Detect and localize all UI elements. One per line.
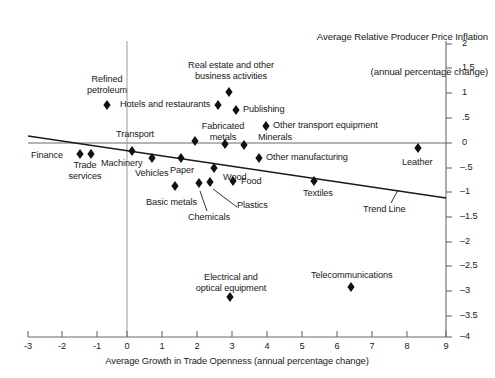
x-tick-label: 6: [327, 341, 347, 351]
point-label-fabricated-metals: Fabricatedmetals: [187, 121, 259, 142]
point-label-food: Food: [241, 176, 262, 187]
x-tick-marks: [28, 331, 446, 337]
y-tick-label: –1: [460, 186, 470, 196]
point-label-textiles: Textiles: [303, 188, 333, 199]
y-tick-marks: [446, 44, 452, 337]
point-label-transport: Transport: [116, 129, 154, 140]
y-tick-label: –2: [460, 236, 470, 246]
point-label-chemicals: Chemicals: [188, 212, 230, 223]
data-point-leather: [414, 143, 421, 153]
y-tick-label: –3.5: [460, 310, 477, 320]
data-point-plastics: [206, 177, 213, 187]
x-tick-label: 1: [152, 341, 172, 351]
y-tick-label: –2.5: [460, 260, 477, 270]
x-tick-label: 9: [436, 341, 456, 351]
x-tick-label: 0: [117, 341, 137, 351]
y-tick-label: 1.5: [462, 62, 474, 72]
x-tick-label: 7: [362, 341, 382, 351]
y-tick-label: .5: [462, 112, 469, 122]
x-tick-label: -1: [87, 341, 107, 351]
data-point-chemicals: [195, 178, 202, 188]
x-tick-label: 8: [397, 341, 417, 351]
data-point-real-estate: [225, 87, 232, 97]
point-label-real-estate: Real estate and otherbusiness activities: [161, 60, 301, 81]
point-label-minerals: Minerals: [258, 132, 292, 143]
data-point-publishing: [232, 105, 239, 115]
data-point-paper: [177, 153, 184, 163]
data-point-basic-metals: [171, 181, 178, 191]
point-label-finance: Finance: [31, 150, 63, 161]
data-point-other-manufacturing: [255, 153, 262, 163]
x-tick-label: 3: [222, 341, 242, 351]
point-label-publishing: Publishing: [243, 104, 284, 115]
point-label-hotels-restaurants: Hotels and restaurants: [120, 99, 210, 110]
point-label-basic-metals: Basic metals: [146, 197, 197, 208]
data-point-hotels-restaurants: [214, 100, 221, 110]
x-axis-title: Average Growth in Trade Openness (annual…: [57, 355, 417, 366]
point-label-other-manufacturing: Other manufacturing: [266, 152, 348, 163]
x-tick-label: 2: [187, 341, 207, 351]
x-tick-label: -2: [52, 341, 72, 351]
plastics-leader-line: [213, 189, 237, 207]
data-point-other-transport-eq: [262, 121, 269, 131]
data-point-refined-petroleum: [103, 100, 110, 110]
data-point-trade-services: [87, 149, 94, 159]
y-tick-label: 2: [462, 38, 467, 48]
y-tick-label: –3: [460, 285, 470, 295]
data-point-finance: [76, 149, 83, 159]
point-label-plastics: Plastics: [237, 200, 268, 211]
trend-leader-line: [391, 190, 398, 203]
data-point-electrical-optical: [226, 292, 233, 302]
plot-area: [0, 0, 495, 378]
point-label-refined-petroleum: Refinedpetroleum: [62, 74, 152, 95]
y-tick-label: –1.5: [460, 211, 477, 221]
x-tick-label: 5: [292, 341, 312, 351]
chemicals-leader-line: [200, 191, 207, 211]
point-label-other-transport-equipment: Other transport equipment: [273, 120, 378, 131]
y-tick-label: –4: [460, 331, 470, 341]
x-tick-label: 4: [257, 341, 277, 351]
point-label-vehicles: Vehicles: [135, 168, 168, 179]
x-tick-label: -3: [18, 341, 38, 351]
y-tick-label: –.5: [460, 162, 472, 172]
data-point-telecommunications: [347, 282, 354, 292]
y-tick-label: 0: [462, 137, 467, 147]
point-label-telecommunications: Telecommunications: [311, 270, 392, 281]
y-tick-label: 1: [462, 87, 467, 97]
trend-line-label: Trend Line: [363, 204, 406, 215]
point-label-leather: Leather: [402, 157, 432, 168]
point-label-electrical-optical-equipment: Electrical andoptical equipment: [176, 272, 286, 293]
point-label-machinery: Machinery: [101, 158, 142, 169]
scatter-chart: Average Relative Producer Price Inflatio…: [0, 0, 495, 378]
data-point-machinery: [128, 146, 135, 156]
point-label-paper: Paper: [170, 165, 194, 176]
